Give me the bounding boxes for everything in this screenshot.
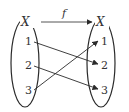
codomain-set: X 1 2 3 <box>87 14 115 107</box>
mapping-arrow-2-to-3 <box>34 66 98 89</box>
domain-element-3: 3 <box>25 84 32 97</box>
function-label: f <box>61 7 68 20</box>
codomain-element-1: 1 <box>101 35 108 48</box>
function-mapping-diagram: X 1 2 3 X 1 2 3 f <box>0 0 129 112</box>
domain-element-1: 1 <box>25 35 32 48</box>
codomain-element-2: 2 <box>101 59 108 72</box>
codomain-element-3: 3 <box>101 84 108 97</box>
domain-element-2: 2 <box>25 59 32 72</box>
codomain-set-label: X <box>95 15 105 29</box>
function-arrow: f <box>41 7 92 22</box>
domain-set: X 1 2 3 <box>11 14 39 107</box>
domain-set-label: X <box>20 15 30 29</box>
